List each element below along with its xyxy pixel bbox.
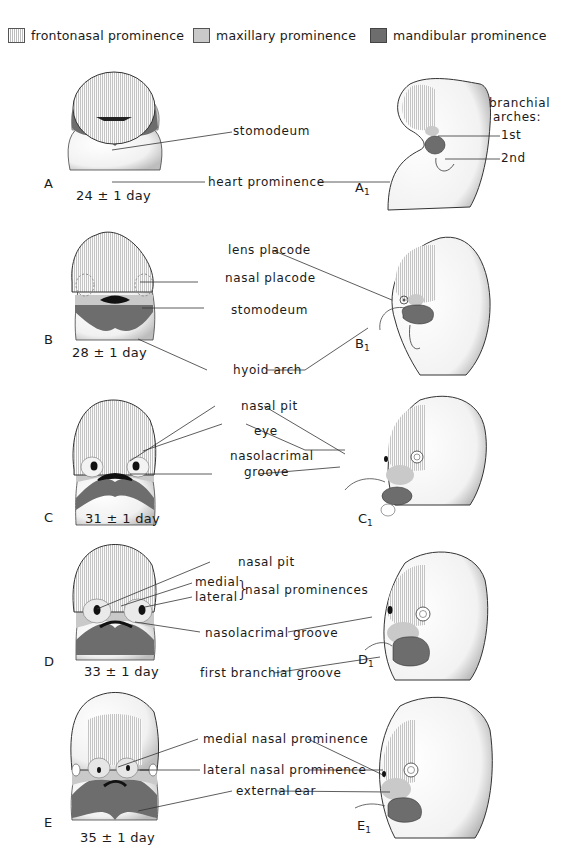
legend-label: mandibular prominence [393,29,547,43]
label-nasolacrimal-groove-D: nasolacrimal groove [205,626,338,640]
legend-label: frontonasal prominence [31,29,184,43]
label-nasal-prominences: nasal prominences [245,583,368,597]
age-E: 35 ± 1 day [80,830,155,845]
legend-item-mandibular: mandibular prominence [370,28,547,43]
age-C: 31 ± 1 day [85,511,160,526]
legend-item-maxillary: maxillary prominence [193,28,356,43]
mandibular-swatch-icon [370,28,387,43]
panel-letter-A1: A1 [355,180,370,197]
label-hyoid-arch: hyoid arch [233,363,302,377]
panel-letter-C: C [44,510,53,525]
panel-letter-E1: E1 [357,818,371,835]
label-branchial: branchial [489,96,550,110]
panel-letter-B: B [44,332,53,347]
panel-letter-C1: C1 [358,511,373,528]
panel-letter-B1: B1 [355,336,370,353]
embryo-B-frontal [72,232,155,340]
label-arches: arches: [493,110,541,124]
legend-item-frontonasal: frontonasal prominence [8,28,184,43]
panel-letter-D1: D1 [358,652,374,669]
label-lens-placode: lens placode [228,243,311,257]
legend-label: maxillary prominence [216,29,356,43]
label-medial: medial [195,575,239,589]
age-D: 33 ± 1 day [84,664,159,679]
maxillary-swatch-icon [193,28,210,43]
label-2nd: 2nd [501,151,526,165]
label-stomodeum-B: stomodeum [231,303,308,317]
label-stomodeum-A: stomodeum [233,124,310,138]
label-eye: eye [254,424,278,438]
frontonasal-swatch-icon [8,28,25,43]
panel-letter-D: D [44,654,54,669]
panel-letter-E: E [44,815,52,830]
label-nasal-placode: nasal placode [225,271,316,285]
label-external-ear: external ear [236,784,316,798]
age-A: 24 ± 1 day [76,188,151,203]
legend: frontonasal prominence maxillary promine… [0,28,583,52]
embryo-A1-lateral [388,79,491,210]
age-B: 28 ± 1 day [72,345,147,360]
label-medial-nasal-prominence: medial nasal prominence [203,732,368,746]
label-lateral: lateral [195,590,238,604]
embryo-E-frontal [71,692,159,820]
embryo-D1-lateral [365,552,488,680]
embryo-C1-lateral [345,396,486,516]
embryo-E1-lateral [355,697,492,838]
label-nasal-pit-D: nasal pit [238,555,295,569]
embryo-B1-lateral [380,237,490,375]
embryo-D-frontal [73,544,156,660]
label-lateral-nasal-prominence: lateral nasal prominence [203,763,367,777]
embryo-C-frontal [73,400,156,525]
label-groove: groove [244,465,289,479]
label-1st: 1st [501,128,521,142]
label-nasolacrimal: nasolacrimal [230,449,314,463]
embryo-A-frontal [68,72,162,170]
label-nasal-pit-C: nasal pit [241,399,298,413]
label-heart-prominence: heart prominence [208,175,325,189]
panel-letter-A: A [44,176,53,191]
label-first-branchial-groove: first branchial groove [200,666,341,680]
